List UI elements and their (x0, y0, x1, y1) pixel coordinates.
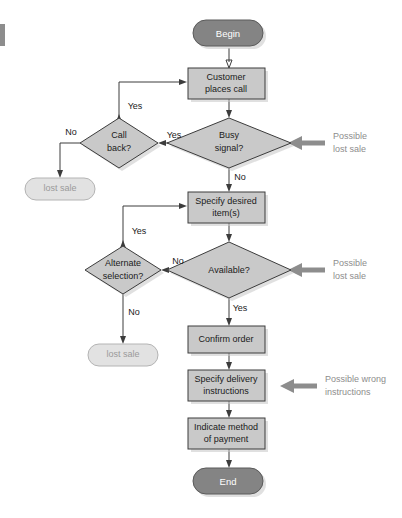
arrowhead-available-yes (226, 318, 232, 326)
arrowhead-callback-no-down (57, 170, 63, 178)
specify-items-label-line2: item(s) (212, 208, 240, 218)
busy-label-line1: Busy (219, 130, 240, 140)
annotation-arrow-group (280, 136, 325, 393)
arrowhead-confirm-to-delivery (226, 362, 232, 370)
annotation-delivery-line1: Possible wrong (325, 374, 386, 384)
annotation-arrow-delivery-head (280, 379, 294, 393)
arrowhead-payment-to-end (226, 460, 232, 468)
busy-label-line2: signal? (215, 143, 244, 153)
arrowhead-alternate-no-down (120, 336, 126, 344)
arrowhead-busy-no (226, 184, 232, 192)
lost-sale-1-label: lost sale (43, 183, 76, 193)
payment-label-line1: Indicate method (194, 422, 258, 432)
payment-label-line2: of payment (204, 434, 249, 444)
callback-label-line1: Call (111, 130, 127, 140)
customer-label-line1: Customer (206, 72, 245, 82)
branch-label-alternate-yes: Yes (132, 226, 147, 236)
end-label: End (220, 476, 237, 487)
branch-label-callback-no: No (65, 127, 77, 137)
alternate-label-line1: Alternate (105, 258, 141, 268)
branch-label-available-no: No (172, 256, 184, 266)
node-available[interactable]: Available? (167, 242, 294, 301)
annotation-arrow-busy-shaft (300, 141, 325, 146)
customer-label-line2: places call (205, 84, 247, 94)
arrowhead-callback-yes-right (179, 79, 187, 85)
annotation-available-line2: lost sale (333, 271, 366, 281)
branch-label-busy-no: No (234, 172, 246, 182)
delivery-label-line1: Specify delivery (194, 374, 258, 384)
node-specify-delivery[interactable]: Specify delivery instructions (188, 370, 268, 404)
node-call-back[interactable]: Call back? (80, 118, 161, 171)
node-begin[interactable]: Begin (193, 20, 266, 49)
annotation-busy-line1: Possible (333, 131, 367, 141)
node-specify-desired-items[interactable]: Specify desired item(s) (188, 192, 268, 226)
alternate-shape (85, 246, 161, 294)
begin-label: Begin (216, 28, 240, 39)
arrowhead-customer-to-busy (226, 110, 232, 118)
confirm-label: Confirm order (198, 334, 253, 344)
arrowhead-delivery-to-payment (226, 410, 232, 418)
annotation-text-group: Possible lost sale Possible lost sale Po… (325, 131, 386, 397)
specify-items-label-line1: Specify desired (195, 196, 257, 206)
lost-sale-2-label: lost sale (106, 349, 139, 359)
arrowhead-alternate-yes-right (179, 203, 187, 209)
alternate-label-line2: selection? (103, 271, 144, 281)
node-customer-places-call[interactable]: Customer places call (188, 68, 268, 102)
branch-label-available-yes: Yes (233, 303, 248, 313)
node-busy-signal[interactable]: Busy signal? (167, 118, 294, 171)
left-margin-bar (0, 24, 5, 46)
arrowhead-specify-to-available (226, 234, 232, 242)
node-lost-sale-2[interactable]: lost sale (88, 344, 158, 366)
annotation-available-line1: Possible (333, 258, 367, 268)
node-end[interactable]: End (193, 468, 266, 497)
annotation-arrow-delivery-shaft (292, 384, 317, 389)
branch-label-busy-yes: Yes (167, 130, 182, 140)
branch-label-alternate-no: No (128, 307, 140, 317)
available-label: Available? (208, 265, 249, 275)
node-lost-sale-1[interactable]: lost sale (25, 178, 95, 200)
flowchart-canvas: Begin Customer places call Busy signal? … (0, 0, 402, 518)
callback-label-line2: back? (107, 143, 131, 153)
node-indicate-payment[interactable]: Indicate method of payment (188, 418, 268, 452)
branch-label-callback-yes: Yes (128, 101, 143, 111)
annotation-delivery-line2: instructions (325, 387, 371, 397)
annotation-arrow-available-shaft (300, 268, 325, 273)
node-confirm-order[interactable]: Confirm order (188, 326, 268, 356)
flowchart-svg: Begin Customer places call Busy signal? … (0, 0, 402, 518)
node-alternate-selection[interactable]: Alternate selection? (85, 246, 164, 297)
annotation-busy-line2: lost sale (333, 144, 366, 154)
delivery-label-line2: instructions (203, 386, 249, 396)
